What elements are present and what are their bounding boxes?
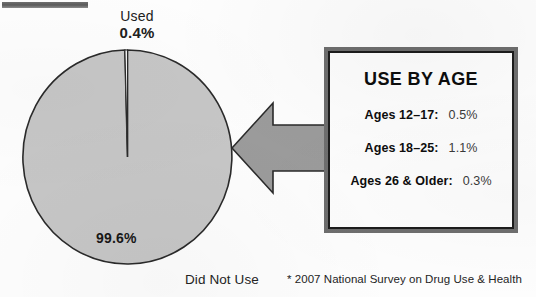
use-by-age-title: USE BY AGE	[342, 69, 500, 90]
pointer-arrow-icon	[228, 98, 332, 198]
age-row-label: Ages 18–25:	[365, 141, 439, 155]
pie-label-used-text: Used	[120, 8, 153, 24]
age-row: Ages 12–17: 0.5%	[342, 108, 500, 122]
age-row-value: 1.1%	[449, 141, 478, 155]
pie-label-used-value: 0.4%	[94, 25, 180, 41]
age-row-value: 0.5%	[449, 108, 478, 122]
pointer-arrow	[228, 98, 332, 198]
age-row-label: Ages 12–17:	[365, 108, 439, 122]
pie-label-used: Used 0.4%	[94, 8, 180, 41]
age-row: Ages 26 & Older: 0.3%	[342, 174, 500, 188]
pie-label-majority-value: 99.6%	[96, 230, 137, 246]
source-footnote: * 2007 National Survey on Drug Use & Hea…	[287, 273, 522, 285]
arrow-shape	[232, 103, 332, 193]
age-row-label: Ages 26 & Older:	[350, 174, 452, 188]
age-row: Ages 18–25: 1.1%	[342, 141, 500, 155]
age-row-value: 0.3%	[463, 174, 492, 188]
use-by-age-box-inner: USE BY AGE Ages 12–17: 0.5% Ages 18–25: …	[328, 51, 514, 229]
top-divider-rule	[2, 2, 88, 8]
use-by-age-box: USE BY AGE Ages 12–17: 0.5% Ages 18–25: …	[324, 47, 518, 233]
figure-root: Used 0.4% 99.6% Did Not Use USE BY AGE A…	[0, 0, 536, 297]
pie-label-did-not-use: Did Not Use	[185, 272, 259, 287]
